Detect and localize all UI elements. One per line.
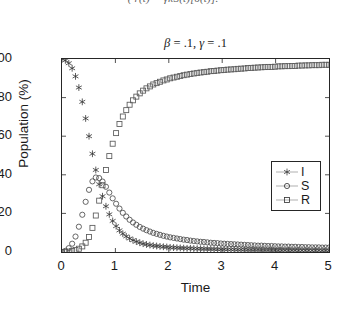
- legend-item-s: S: [274, 179, 318, 193]
- asterisk-marker-icon: [274, 165, 300, 179]
- y-axis-label: Population (%): [16, 39, 31, 209]
- y-tick-label: 80: [0, 90, 12, 103]
- legend-label: S: [300, 179, 309, 193]
- x-tick-label: 2: [153, 259, 183, 272]
- series-I: [62, 59, 329, 252]
- square-marker-icon: [274, 193, 300, 207]
- chart-legend: I S R: [271, 161, 321, 211]
- circle-marker-icon: [274, 179, 300, 193]
- legend-label: I: [300, 165, 304, 179]
- legend-item-i: I: [274, 165, 318, 179]
- beta-value: = .1,: [170, 36, 199, 50]
- figure: β = .1, γ = .1 100 80 60 40 20 0 Populat…: [0, 30, 346, 313]
- x-tick-label: 5: [313, 259, 343, 272]
- gamma-value: = .1: [204, 36, 227, 50]
- y-tick-label: 100: [0, 51, 12, 64]
- legend-label: R: [300, 193, 310, 207]
- x-tick-label: 4: [260, 259, 290, 272]
- clipped-equation-fragment: ( r(t) = γκS(t)[δ(t)].: [0, 0, 346, 6]
- y-tick-label: 20: [0, 205, 12, 218]
- y-tick-label: 0: [0, 244, 12, 257]
- legend-item-r: R: [274, 193, 318, 207]
- series-R: [62, 62, 329, 252]
- plot-area: [61, 58, 330, 253]
- x-tick-label: 0: [46, 259, 76, 272]
- x-tick-label: 3: [206, 259, 236, 272]
- x-tick-label: 1: [99, 259, 129, 272]
- y-tick-label: 60: [0, 128, 12, 141]
- y-tick-label: 40: [0, 167, 12, 180]
- x-axis-label: Time: [61, 280, 330, 295]
- chart-title: β = .1, γ = .1: [61, 36, 330, 51]
- plot-canvas: [62, 59, 329, 252]
